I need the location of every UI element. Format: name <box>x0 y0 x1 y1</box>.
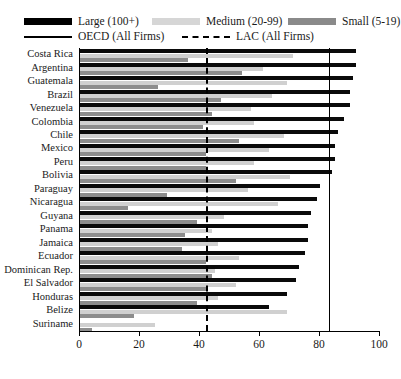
bar-group <box>80 278 380 290</box>
y-axis-label: Guatemala <box>0 76 73 87</box>
y-axis-label: Panama <box>0 224 73 235</box>
x-axis-tick-label: 100 <box>370 339 387 351</box>
y-axis-label: Peru <box>0 157 73 168</box>
bar-small <box>80 193 167 197</box>
legend-label-small: Small (5-19) <box>342 16 400 28</box>
bar-small <box>80 287 206 291</box>
chart-container: Large (100+) Medium (20-99) Small (5-19)… <box>0 0 401 379</box>
legend-label-large: Large (100+) <box>78 16 139 28</box>
bar-large <box>80 184 320 188</box>
y-axis-line <box>79 48 80 331</box>
bar-medium <box>80 134 284 138</box>
bar-medium <box>80 161 254 165</box>
bar-small <box>80 125 203 129</box>
bar-large <box>80 49 356 53</box>
legend-swatch-small-icon <box>288 18 336 25</box>
y-axis-label: Belize <box>0 305 73 316</box>
bar-small <box>80 301 197 305</box>
bar-group <box>80 170 380 182</box>
y-axis-label: Colombia <box>0 117 73 128</box>
y-axis-label: Nicaragua <box>0 197 73 208</box>
bar-small <box>80 179 236 183</box>
bar-group <box>80 211 380 223</box>
bar-large <box>80 103 350 107</box>
bar-group <box>80 319 380 331</box>
bar-large <box>80 117 344 121</box>
legend-item-medium: Medium (20-99) <box>152 14 282 29</box>
bar-medium <box>80 121 254 125</box>
bar-medium <box>80 107 251 111</box>
bar-medium <box>80 296 218 300</box>
bar-large <box>80 238 308 242</box>
bar-group <box>80 184 380 196</box>
bar-group <box>80 305 380 317</box>
bar-medium <box>80 175 290 179</box>
reference-line-lac <box>206 48 208 331</box>
y-axis-label: Brazil <box>0 90 73 101</box>
bar-medium <box>80 229 212 233</box>
x-axis-tick-label: 0 <box>76 339 82 351</box>
legend-item-large: Large (100+) <box>24 14 139 29</box>
bar-small <box>80 206 128 210</box>
bar-large <box>80 224 308 228</box>
bar-medium <box>80 242 218 246</box>
y-axis-label: Costa Rica <box>0 49 73 60</box>
bar-group <box>80 197 380 209</box>
x-axis-tick-label: 60 <box>253 339 265 351</box>
bar-medium <box>80 202 278 206</box>
bar-large <box>80 292 287 296</box>
bar-small <box>80 71 242 75</box>
bar-medium <box>80 81 287 85</box>
plot-wrapper: Costa RicaArgentinaGuatemalaBrazilVenezu… <box>0 48 401 379</box>
y-axis-label: Suriname <box>0 319 73 330</box>
y-axis-label: Mexico <box>0 143 73 154</box>
y-axis-label: Paraguay <box>0 184 73 195</box>
x-axis-tick <box>259 331 260 336</box>
bar-medium <box>80 283 236 287</box>
bar-large <box>80 278 296 282</box>
legend-item-small: Small (5-19) <box>288 14 400 29</box>
bar-medium <box>80 323 155 327</box>
bar-large <box>80 251 305 255</box>
legend-row-reference: OECD (All Firms) LAC (All Firms) <box>0 29 401 44</box>
bar-medium <box>80 54 293 58</box>
bar-group <box>80 103 380 115</box>
y-axis-label: Guyana <box>0 211 73 222</box>
x-axis-tick <box>199 331 200 336</box>
x-axis-tick-label: 20 <box>133 339 145 351</box>
legend-label-lac: LAC (All Firms) <box>236 31 314 43</box>
legend-swatch-large-icon <box>24 18 72 25</box>
x-axis-tick <box>79 331 80 336</box>
y-axis-label: Chile <box>0 130 73 141</box>
bar-small <box>80 139 239 143</box>
x-axis-tick <box>139 331 140 336</box>
bar-small <box>80 166 206 170</box>
bar-medium <box>80 215 224 219</box>
legend-line-solid-icon <box>24 33 72 40</box>
bar-medium <box>80 148 269 152</box>
x-axis-line <box>79 331 379 332</box>
x-axis-tick-label: 80 <box>313 339 325 351</box>
bar-group <box>80 251 380 263</box>
bar-large <box>80 76 353 80</box>
bar-group <box>80 63 380 75</box>
y-axis-label: Honduras <box>0 292 73 303</box>
bar-large <box>80 197 317 201</box>
x-axis-tick <box>319 331 320 336</box>
bar-group <box>80 224 380 236</box>
bar-small <box>80 260 206 264</box>
bar-large <box>80 90 350 94</box>
bar-large <box>80 265 299 269</box>
legend-swatch-medium-icon <box>152 18 200 25</box>
bar-group <box>80 238 380 250</box>
bar-medium <box>80 269 215 273</box>
bar-small <box>80 58 188 62</box>
bar-large <box>80 305 269 309</box>
bar-medium <box>80 310 287 314</box>
y-axis-category-labels: Costa RicaArgentinaGuatemalaBrazilVenezu… <box>0 48 77 331</box>
bar-large <box>80 63 356 67</box>
bar-small <box>80 85 158 89</box>
reference-line-oecd <box>329 48 330 331</box>
bar-small <box>80 314 134 318</box>
x-axis-tick <box>379 331 380 336</box>
